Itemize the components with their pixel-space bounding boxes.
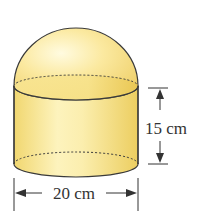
arrow-down-icon (156, 153, 164, 163)
arrow-up-icon (156, 89, 164, 99)
diameter-label: 20 cm (53, 184, 95, 203)
height-dimension: 15 cm (145, 88, 187, 164)
composite-solid-diagram: 15 cm 20 cm (0, 0, 213, 222)
diameter-dimension: 20 cm (14, 178, 138, 211)
arrow-left-icon (15, 189, 26, 197)
arrow-right-icon (126, 189, 137, 197)
height-label: 15 cm (145, 119, 187, 138)
